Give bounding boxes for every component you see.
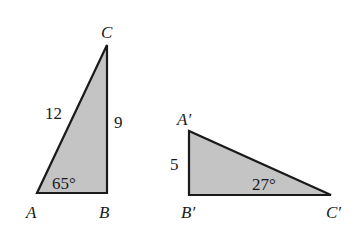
side-label-ac: 12 <box>45 104 62 123</box>
diagram-canvas: C A B 12 9 65° A′ B′ C′ 5 27° <box>0 0 363 245</box>
vertex-label-a-prime: A′ <box>176 110 191 129</box>
vertex-label-c: C <box>101 23 113 42</box>
vertex-label-a: A <box>25 203 37 222</box>
triangle-a-prime-b-prime-c-prime: A′ B′ C′ 5 27° <box>170 110 341 222</box>
angle-label-a: 65° <box>52 174 76 193</box>
vertex-label-b: B <box>99 203 110 222</box>
side-label-a-prime-b-prime: 5 <box>170 155 179 174</box>
vertex-label-c-prime: C′ <box>326 203 341 222</box>
side-label-bc: 9 <box>114 113 123 132</box>
angle-label-c-prime: 27° <box>252 175 276 194</box>
vertex-label-b-prime: B′ <box>181 203 195 222</box>
triangle-abc: C A B 12 9 65° <box>25 23 123 222</box>
